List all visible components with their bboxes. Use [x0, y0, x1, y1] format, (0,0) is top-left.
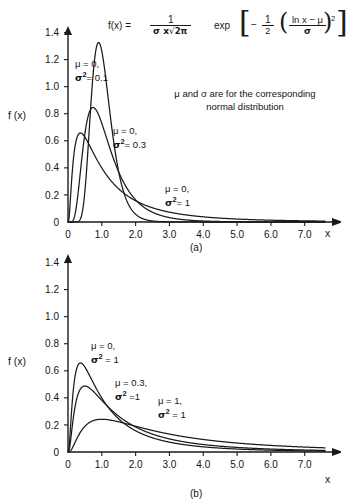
panel-a-annotation-1-mu: μ = 0,: [75, 58, 99, 69]
svg-b-xtick-1: 1.0: [95, 459, 109, 470]
panel-a-annotation-3-value: = 1: [177, 197, 190, 208]
svg-b-xtick-3: 3.0: [162, 459, 176, 470]
panel-b-caption: (b): [190, 489, 202, 500]
svg-a-xtick-3: 3.0: [162, 229, 176, 240]
svg-a-ytick-4: 0.8: [45, 108, 59, 119]
svg-b-xtick-5: 5.0: [230, 459, 244, 470]
svg-b-ytick-6: 1.2: [45, 284, 59, 295]
svg-a-xtick-5: 5.0: [230, 229, 244, 240]
panel-b-annotation-3-value: = 1: [170, 409, 186, 420]
panel-a-y-axis-label: f (x): [8, 110, 26, 121]
svg-b-ytick-7: 1.4: [45, 257, 59, 268]
svg-b-xtick-2: 2.0: [129, 459, 143, 470]
svg-a-ytick-7: 1.4: [45, 27, 59, 38]
panel-b-x-axis-label: x: [325, 474, 330, 485]
svg-b-xtick-6: 6.0: [264, 459, 278, 470]
svg-a-xtick-7: 7.0: [298, 229, 312, 240]
panel-a-annotation-3: μ = 0, σ2= 1: [165, 183, 190, 209]
svg-b-xtick-4: 4.0: [196, 459, 210, 470]
svg-a-ytick-3: 0.6: [45, 135, 59, 146]
panel-a-annotation-2: μ = 0, σ2= 0.3: [113, 125, 146, 151]
panel-a-annotation-2-mu: μ = 0,: [113, 125, 137, 136]
svg-a-xtick-4: 4.0: [196, 229, 210, 240]
svg-b-xtick-7: 7.0: [298, 459, 312, 470]
svg-a-xtick-6: 6.0: [264, 229, 278, 240]
svg-b-ytick-1: 0.2: [45, 420, 59, 431]
svg-a-ytick-2: 0.4: [45, 162, 59, 173]
panel-a-annotation-2-value: = 0.3: [125, 139, 146, 150]
panel-a-annotation-1-value: = 0.1: [87, 72, 108, 83]
svg-b-ytick-3: 0.6: [45, 365, 59, 376]
panel-b-y-axis-label: f (x): [8, 356, 26, 367]
chart-panel-a: 00.20.40.60.81.01.21.401.02.03.04.05.06.…: [0, 0, 341, 258]
panel-b-annotation-2: μ = 0.3, σ2 =1: [115, 377, 147, 403]
svg-a-curve-2: [68, 133, 325, 222]
panel-b-annotation-1-mu: μ = 0,: [91, 340, 115, 351]
svg-b-ytick-2: 0.4: [45, 392, 59, 403]
panel-a-annotation-1: μ = 0, σ2= 0.1: [75, 58, 108, 84]
panel-b-annotation-3-mu: μ = 1,: [158, 395, 182, 406]
svg-a-ytick-6: 1.2: [45, 54, 59, 65]
svg-a-curve-1: [68, 107, 325, 222]
svg-b-ytick-0: 0: [53, 447, 59, 458]
panel-a-annotation-3-mu: μ = 0,: [165, 183, 189, 194]
panel-b-annotation-1-value: = 1: [103, 354, 119, 365]
svg-b-xtick-0: 0: [65, 459, 71, 470]
svg-a-ytick-5: 1.0: [45, 81, 59, 92]
chart-panel-b: 00.20.40.60.81.01.21.401.02.03.04.05.06.…: [0, 252, 341, 503]
svg-a-xtick-0: 0: [65, 229, 71, 240]
svg-b-ytick-4: 0.8: [45, 338, 59, 349]
panel-b-annotation-1: μ = 0, σ2 = 1: [91, 340, 119, 366]
svg-b-ytick-5: 1.0: [45, 311, 59, 322]
svg-a-ytick-1: 0.2: [45, 190, 59, 201]
panel-a-x-axis-label: x: [325, 228, 330, 239]
panel-b-annotation-3: μ = 1, σ2 = 1: [158, 395, 186, 421]
svg-a-xtick-2: 2.0: [129, 229, 143, 240]
svg-a-ytick-0: 0: [53, 217, 59, 228]
panel-b-annotation-2-mu: μ = 0.3,: [115, 377, 147, 388]
svg-a-xtick-1: 1.0: [95, 229, 109, 240]
panel-b-annotation-2-value: =1: [127, 391, 140, 402]
panel-b-plot: 00.20.40.60.81.01.21.401.02.03.04.05.06.…: [0, 252, 341, 503]
panel-a-plot: 00.20.40.60.81.01.21.401.02.03.04.05.06.…: [0, 0, 341, 258]
svg-b-curve-2: [68, 419, 325, 452]
